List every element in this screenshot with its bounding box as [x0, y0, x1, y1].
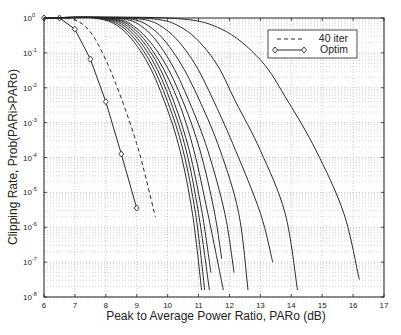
legend: 40 iter Optim: [268, 30, 357, 58]
y-tick-exponent: -4: [32, 152, 37, 158]
series-line-iter-6: [44, 17, 222, 258]
y-tick-exponent: 0: [32, 12, 35, 18]
x-axis-label: Peak to Average Power Ratio, PARo (dB): [106, 309, 326, 323]
y-axis-label: Clipping Rate, Prob(PARi>PARo): [6, 69, 20, 245]
series-line-iter-9: [44, 17, 273, 262]
y-tick-exponent: -7: [32, 256, 37, 262]
x-tick-label: 6: [42, 301, 47, 310]
diamond-marker-icon: [119, 151, 124, 157]
diamond-marker-icon: [72, 26, 77, 32]
diamond-marker-icon: [103, 99, 108, 105]
legend-label-optim: Optim: [320, 43, 348, 55]
series-line-optim: [44, 18, 137, 208]
y-tick-exponent: -6: [32, 221, 37, 227]
diamond-marker-icon: [88, 56, 93, 62]
y-tick-exponent: -8: [32, 291, 37, 297]
x-tick-label: 16: [349, 301, 358, 310]
y-tick-exponent: -1: [32, 47, 37, 53]
y-tick-exponent: -2: [32, 82, 37, 88]
y-tick-exponent: -5: [32, 186, 37, 192]
x-tick-label: 17: [380, 301, 389, 310]
y-tick-exponent: -3: [32, 117, 37, 123]
clipping-rate-chart: 67891011121314151617 10010-110-210-310-4…: [0, 0, 401, 335]
series-line-iter-5: [44, 17, 223, 290]
series-line-iter-4: [44, 17, 211, 272]
x-tick-label: 7: [73, 301, 78, 310]
diamond-marker-icon: [134, 205, 139, 211]
